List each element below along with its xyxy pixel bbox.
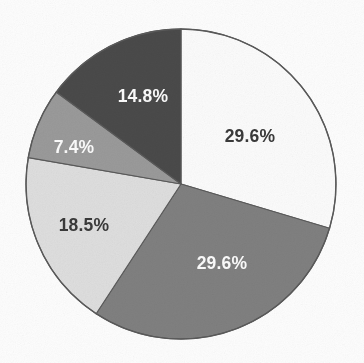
pie-slice-label: 18.5%: [59, 215, 110, 235]
pie-chart: 29.6%29.6%18.5%7.4%14.8%: [0, 0, 364, 363]
pie-slice-label: 7.4%: [54, 137, 95, 157]
pie-slice-label: 29.6%: [225, 126, 276, 146]
pie-slice-label: 29.6%: [197, 253, 248, 273]
pie-slice-label: 14.8%: [118, 86, 169, 106]
pie-chart-figure: 29.6%29.6%18.5%7.4%14.8%: [0, 0, 364, 363]
pie-slices-group: [26, 29, 336, 339]
